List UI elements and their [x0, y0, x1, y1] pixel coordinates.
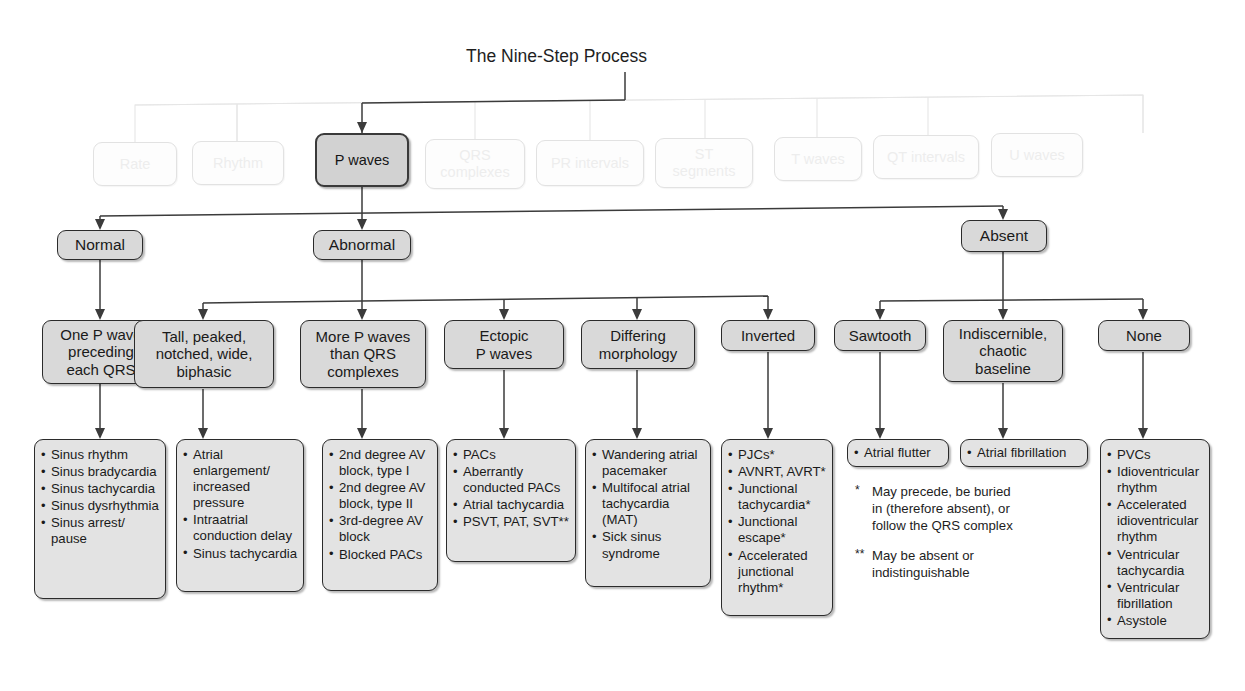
list-item: Sinus bradycardia	[41, 464, 160, 480]
list-item: Multifocal atrial tachycardia (MAT)	[592, 480, 705, 528]
step-rhythm[interactable]: Rhythm	[192, 141, 284, 185]
list-inverted: PJCs*AVNRT, AVRT*Junctional tachycardia*…	[721, 439, 833, 616]
list-items: Atrial fibrillation	[967, 445, 1082, 461]
step-p-waves-label: P waves	[335, 152, 390, 169]
node-abnormal[interactable]: Abnormal	[313, 230, 411, 260]
list-item: PJCs*	[728, 447, 827, 463]
list-item: Sinus rhythm	[41, 447, 160, 463]
flowchart-canvas: The Nine-Step Process	[0, 0, 1245, 691]
list-items: PACsAberrantly conducted PACsAtrial tach…	[453, 447, 570, 530]
list-item: Accelerated junctional rhythm*	[728, 548, 827, 596]
node-tall-peaked-label: Tall, peaked, notched, wide, biphasic	[156, 328, 253, 380]
list-none: PVCsIdioventricular rhythmAccelerated id…	[1100, 439, 1210, 639]
list-item: Junctional tachycardia*	[728, 481, 827, 513]
list-item: Aberrantly conducted PACs	[453, 464, 570, 496]
node-more-p-waves-than-qrs[interactable]: More P waves than QRS complexes	[300, 320, 426, 388]
list-item: Ventricular fibrillation	[1107, 580, 1204, 612]
list-item: Blocked PACs	[329, 547, 432, 563]
node-normal[interactable]: Normal	[57, 230, 143, 260]
node-none-label: None	[1126, 327, 1162, 344]
list-item: Sinus tachycardia	[183, 546, 298, 562]
list-item: Atrial tachycardia	[453, 497, 570, 513]
node-ectopic-label: Ectopic P waves	[476, 327, 532, 362]
node-differing-label: Differing morphology	[599, 327, 677, 362]
list-item: 3rd-degree AV block	[329, 513, 432, 545]
list-indiscernible: Atrial fibrillation	[960, 439, 1088, 467]
node-none[interactable]: None	[1098, 320, 1190, 351]
node-more-p-waves-label: More P waves than QRS complexes	[316, 328, 411, 380]
step-qrs-complexes[interactable]: QRS complexes	[425, 139, 525, 189]
list-items: Wandering atrial pacemakerMultifocal atr…	[592, 447, 705, 562]
list-items: Sinus rhythmSinus bradycardiaSinus tachy…	[41, 447, 160, 548]
list-items: Atrial enlargement/ increased pressureIn…	[183, 447, 298, 562]
list-item: Asystole	[1107, 613, 1204, 629]
node-abnormal-label: Abnormal	[329, 236, 395, 254]
footnote: **May be absent or indistinguishable	[855, 548, 1020, 582]
step-t-waves-label: T waves	[791, 151, 845, 168]
list-differing-morphology: Wandering atrial pacemakerMultifocal atr…	[585, 439, 711, 587]
node-absent[interactable]: Absent	[961, 220, 1047, 252]
list-item: Atrial flutter	[854, 445, 943, 461]
node-inverted-label: Inverted	[741, 327, 795, 344]
footnote: *May precede, be buried in (therefore ab…	[855, 484, 1020, 535]
step-pr-intervals[interactable]: PR intervals	[536, 140, 644, 186]
footnote-marker: **	[855, 547, 864, 562]
list-item: Sinus dysrhythmia	[41, 498, 160, 514]
list-item: Atrial fibrillation	[967, 445, 1082, 461]
node-sawtooth[interactable]: Sawtooth	[834, 320, 926, 351]
list-item: Wandering atrial pacemaker	[592, 447, 705, 479]
list-tall-peaked: Atrial enlargement/ increased pressureIn…	[176, 439, 304, 592]
list-item: Sick sinus syndrome	[592, 529, 705, 561]
list-item: Intraatrial conduction delay	[183, 512, 298, 544]
list-more-p-waves: 2nd degree AV block, type I2nd degree AV…	[322, 439, 438, 591]
step-st-segments-label: ST segments	[673, 146, 736, 180]
list-items: 2nd degree AV block, type I2nd degree AV…	[329, 447, 432, 563]
list-item: PACs	[453, 447, 570, 463]
footnotes: *May precede, be buried in (therefore ab…	[855, 484, 1020, 594]
page-title: The Nine-Step Process	[466, 46, 647, 67]
node-normal-label: Normal	[75, 236, 125, 254]
step-u-waves[interactable]: U waves	[991, 133, 1083, 177]
list-item: Atrial enlargement/ increased pressure	[183, 447, 298, 511]
list-items: Atrial flutter	[854, 445, 943, 461]
list-sawtooth: Atrial flutter	[847, 439, 949, 467]
list-item: Ventricular tachycardia	[1107, 547, 1204, 579]
step-u-waves-label: U waves	[1009, 147, 1065, 164]
node-sawtooth-label: Sawtooth	[849, 327, 912, 344]
step-rate[interactable]: Rate	[93, 142, 177, 186]
list-item: PVCs	[1107, 447, 1204, 463]
list-item: Idioventricular rhythm	[1107, 464, 1204, 496]
step-qt-intervals-label: QT intervals	[887, 149, 965, 166]
step-rate-label: Rate	[120, 156, 151, 173]
node-one-p-wave-label: One P wave preceding each QRS	[60, 326, 141, 378]
footnote-marker: *	[855, 483, 860, 498]
node-tall-peaked-notched[interactable]: Tall, peaked, notched, wide, biphasic	[134, 320, 274, 388]
list-items: PVCsIdioventricular rhythmAccelerated id…	[1107, 447, 1204, 629]
list-item: Sinus arrest/ pause	[41, 515, 160, 547]
step-t-waves[interactable]: T waves	[774, 137, 862, 181]
list-ectopic-p-waves: PACsAberrantly conducted PACsAtrial tach…	[446, 439, 576, 562]
node-ectopic-p-waves[interactable]: Ectopic P waves	[444, 320, 564, 369]
list-items: PJCs*AVNRT, AVRT*Junctional tachycardia*…	[728, 447, 827, 596]
step-pr-intervals-label: PR intervals	[551, 155, 629, 172]
node-differing-morphology[interactable]: Differing morphology	[581, 320, 695, 369]
list-normal-one-p-wave: Sinus rhythmSinus bradycardiaSinus tachy…	[34, 439, 166, 599]
list-item: PSVT, PAT, SVT**	[453, 514, 570, 530]
step-qrs-complexes-label: QRS complexes	[440, 147, 509, 181]
footnote-text: May be absent or indistinguishable	[872, 548, 974, 580]
step-rhythm-label: Rhythm	[213, 155, 263, 172]
list-item: 2nd degree AV block, type I	[329, 447, 432, 479]
list-item: Accelerated idioventricular rhythm	[1107, 497, 1204, 545]
list-item: 2nd degree AV block, type II	[329, 480, 432, 512]
footnote-text: May precede, be buried in (therefore abs…	[872, 484, 1013, 533]
node-indiscernible-label: Indiscernible, chaotic baseline	[959, 325, 1047, 377]
list-item: Junctional escape*	[728, 514, 827, 546]
list-item: Sinus tachycardia	[41, 481, 160, 497]
node-inverted[interactable]: Inverted	[721, 320, 815, 351]
step-p-waves[interactable]: P waves	[315, 133, 409, 187]
step-st-segments[interactable]: ST segments	[655, 138, 753, 188]
node-indiscernible-chaotic-baseline[interactable]: Indiscernible, chaotic baseline	[943, 320, 1063, 382]
step-qt-intervals[interactable]: QT intervals	[873, 135, 979, 179]
list-item: AVNRT, AVRT*	[728, 464, 827, 480]
node-absent-label: Absent	[980, 227, 1028, 245]
